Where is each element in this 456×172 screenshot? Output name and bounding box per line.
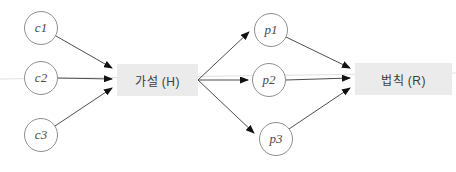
cause-node-c3: c3 xyxy=(24,118,58,152)
prediction-node-p3-label: p3 xyxy=(270,131,283,147)
hypothesis-box: 가설 (H) xyxy=(117,64,198,96)
arrow-c3-to-hypothesis xyxy=(55,88,112,126)
arrow-c1-to-hypothesis xyxy=(56,36,112,68)
arrow-hypothesis-to-p1 xyxy=(198,32,249,80)
prediction-node-p2: p2 xyxy=(252,63,286,97)
law-box: 법칙 (R) xyxy=(355,63,452,95)
cause-node-c1-label: c1 xyxy=(35,20,47,36)
arrow-hypothesis-to-p3 xyxy=(198,80,254,133)
prediction-node-p3: p3 xyxy=(259,122,293,156)
cause-node-c2-label: c2 xyxy=(35,70,47,86)
arrow-p1-to-law xyxy=(286,37,350,68)
hypothesis-box-label: 가설 (H) xyxy=(135,72,180,89)
prediction-node-p1-label: p1 xyxy=(265,22,278,38)
arrow-p2-to-law xyxy=(286,78,350,80)
hypothesis-diagram: 가설 (H) 법칙 (R) c1 c2 c3 p1 p2 p3 xyxy=(0,0,456,172)
cause-node-c2: c2 xyxy=(24,61,58,95)
cause-node-c1: c1 xyxy=(24,11,58,45)
arrow-p3-to-law xyxy=(289,88,350,129)
prediction-node-p2-label: p2 xyxy=(263,72,276,88)
cause-node-c3-label: c3 xyxy=(35,127,47,143)
law-box-label: 법칙 (R) xyxy=(381,71,426,88)
arrow-c2-to-hypothesis xyxy=(58,78,112,79)
prediction-node-p1: p1 xyxy=(254,13,288,47)
